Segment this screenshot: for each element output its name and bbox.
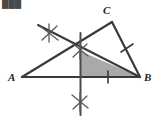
cropped-header-text: ███ [2,0,22,9]
geometry-figure-root: ABC ███ [0,0,157,118]
label-b: B [143,71,151,83]
label-a: A [7,71,15,83]
geometry-figure-svg: ABC ███ [0,0,157,118]
arc-intersection-lower [72,93,88,111]
label-c: C [103,4,111,16]
